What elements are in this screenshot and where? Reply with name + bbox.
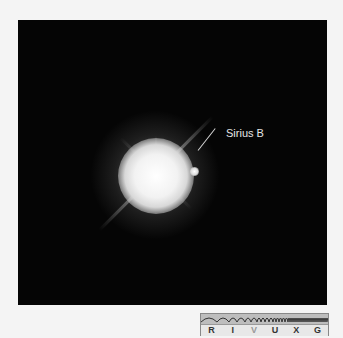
band-g: G [307,325,328,336]
astronomical-photo: Sirius B [18,20,327,305]
sirius-a-star [118,138,194,214]
band-i: I [222,325,243,336]
band-r: R [201,325,222,336]
band-u: U [265,325,286,336]
band-x: X [286,325,307,336]
band-v: V [243,325,264,336]
band-labels: R I V U X G [201,324,328,336]
wavelength-spectrum-bar: R I V U X G [200,313,329,336]
wave-icon [201,314,328,324]
sirius-b-star [190,167,199,176]
sirius-b-label: Sirius B [226,127,264,139]
